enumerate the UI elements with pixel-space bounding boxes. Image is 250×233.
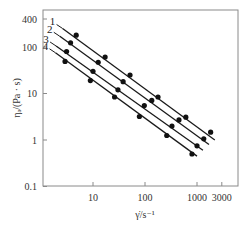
x-tick-label: 100 <box>138 192 153 203</box>
data-series: 1234 <box>43 15 215 156</box>
data-point-marker <box>121 79 126 84</box>
data-point-marker <box>155 94 160 99</box>
data-point-marker <box>74 33 79 38</box>
data-point-marker <box>127 72 132 77</box>
data-point-marker <box>68 40 73 45</box>
data-point-marker <box>176 117 181 122</box>
series-4: 4 <box>43 40 197 157</box>
y-tick-label: 0.1 <box>25 181 38 192</box>
label-leader <box>57 24 63 28</box>
data-point-marker <box>142 103 147 108</box>
y-axis-label: ηₐ/(Pa · s) <box>11 78 23 118</box>
data-point-marker <box>137 114 142 119</box>
data-point-marker <box>183 115 188 120</box>
data-point-marker <box>88 78 93 83</box>
data-point-marker <box>115 87 120 92</box>
series-line <box>60 36 209 144</box>
x-axis-label: γ̇/s⁻¹ <box>134 209 154 220</box>
data-point-marker <box>149 98 154 103</box>
data-point-marker <box>112 94 117 99</box>
x-tick-label: 3000 <box>212 192 232 203</box>
data-point-marker <box>164 133 169 138</box>
series-line <box>63 28 215 140</box>
series-line <box>55 53 197 156</box>
x-tick-label: 1000 <box>187 192 207 203</box>
data-point-marker <box>194 143 199 148</box>
series-line <box>56 46 203 150</box>
series-3: 3 <box>43 33 203 150</box>
data-point-marker <box>189 151 194 156</box>
y-tick-label: 10 <box>27 88 37 99</box>
data-point-marker <box>169 123 174 128</box>
y-tick-label: 400 <box>22 14 37 25</box>
data-point-marker <box>62 59 67 64</box>
data-point-marker <box>103 54 108 59</box>
data-point-marker <box>208 130 213 135</box>
data-point-marker <box>64 49 69 54</box>
data-point-marker <box>90 69 95 74</box>
viscosity-shear-rate-chart: 0.1110100400 1010010003000 1234 ηₐ/(Pa ·… <box>0 0 250 233</box>
label-leader <box>54 32 60 36</box>
series-2: 2 <box>47 23 209 144</box>
series-1: 1 <box>50 15 215 140</box>
x-tick-label: 10 <box>88 192 98 203</box>
label-leader <box>49 49 55 53</box>
y-tick-label: 100 <box>22 42 37 53</box>
y-tick-label: 1 <box>32 135 37 146</box>
plot-frame <box>43 10 238 186</box>
series-label: 4 <box>43 40 49 52</box>
label-leader <box>50 42 56 46</box>
x-axis-ticks: 1010010003000 <box>88 182 232 203</box>
data-point-marker <box>201 136 206 141</box>
data-point-marker <box>96 60 101 65</box>
